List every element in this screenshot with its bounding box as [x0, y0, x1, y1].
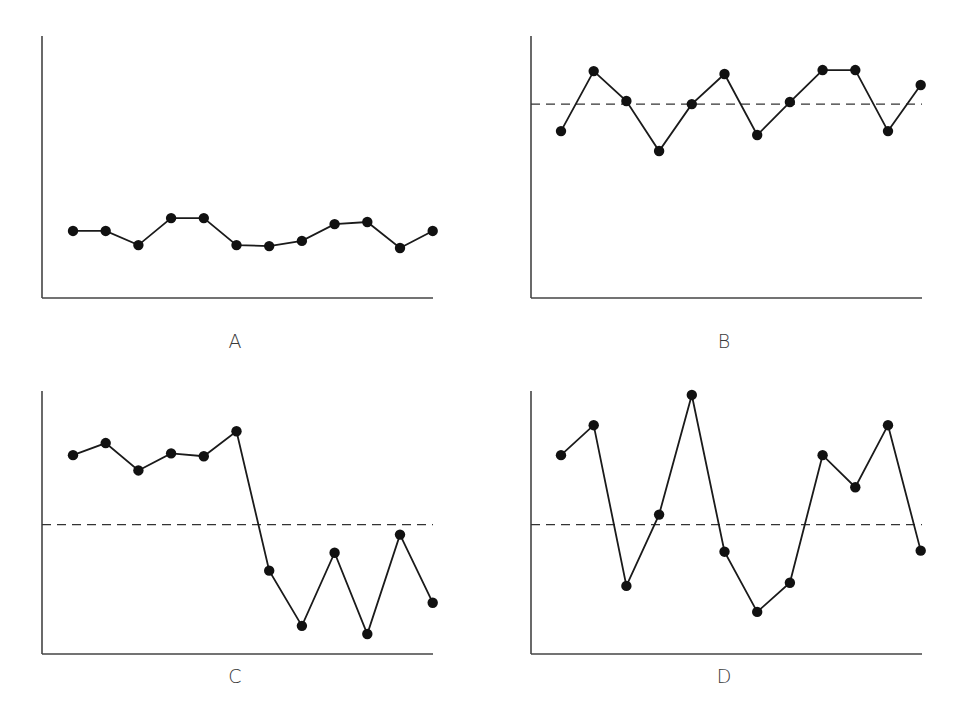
data-point-marker: [654, 509, 664, 519]
chart-b-label: B: [519, 330, 929, 352]
data-point-marker: [850, 482, 860, 492]
data-point-marker: [752, 130, 762, 140]
chart-c-label: C: [30, 665, 440, 687]
data-point-marker: [329, 219, 339, 229]
chart-a-label: A: [30, 330, 440, 352]
data-point-marker: [916, 80, 926, 90]
chart-panel-a: A: [30, 20, 460, 360]
data-point-marker: [428, 598, 438, 608]
data-point-marker: [556, 450, 566, 460]
data-point-marker: [850, 65, 860, 75]
chart-c-plot: [30, 375, 460, 675]
data-point-marker: [719, 69, 729, 79]
data-point-marker: [133, 465, 143, 475]
data-point-marker: [719, 546, 729, 556]
data-point-marker: [395, 243, 405, 253]
data-point-marker: [395, 529, 405, 539]
data-point-marker: [687, 390, 697, 400]
data-point-marker: [68, 226, 78, 236]
chart-b-plot: [519, 20, 949, 320]
series-line: [73, 431, 433, 634]
data-point-marker: [654, 146, 664, 156]
chart-a-plot: [30, 20, 460, 320]
data-point-marker: [329, 548, 339, 558]
data-point-marker: [621, 581, 631, 591]
data-point-marker: [817, 65, 827, 75]
data-point-marker: [428, 226, 438, 236]
data-point-marker: [297, 621, 307, 631]
series-line: [561, 70, 921, 151]
data-point-marker: [687, 99, 697, 109]
data-point-marker: [752, 607, 762, 617]
chart-panel-d: D: [519, 375, 949, 715]
series-line: [561, 395, 921, 612]
data-point-marker: [101, 226, 111, 236]
data-point-marker: [916, 545, 926, 555]
data-point-marker: [362, 629, 372, 639]
data-point-marker: [883, 126, 893, 136]
data-point-marker: [133, 240, 143, 250]
data-point-marker: [264, 241, 274, 251]
data-point-marker: [297, 236, 307, 246]
data-point-marker: [785, 97, 795, 107]
data-point-marker: [199, 451, 209, 461]
data-point-marker: [556, 126, 566, 136]
data-point-marker: [199, 213, 209, 223]
data-point-marker: [589, 66, 599, 76]
chart-panel-c: C: [30, 375, 460, 715]
chart-d-label: D: [519, 665, 929, 687]
chart-panel-b: B: [519, 20, 949, 360]
data-point-marker: [785, 578, 795, 588]
data-point-marker: [589, 420, 599, 430]
data-point-marker: [883, 420, 893, 430]
chart-d-plot: [519, 375, 949, 675]
data-point-marker: [231, 426, 241, 436]
data-point-marker: [166, 213, 176, 223]
series-line: [73, 218, 433, 248]
data-point-marker: [101, 438, 111, 448]
data-point-marker: [362, 217, 372, 227]
data-point-marker: [264, 565, 274, 575]
data-point-marker: [231, 240, 241, 250]
data-point-marker: [68, 450, 78, 460]
data-point-marker: [621, 96, 631, 106]
data-point-marker: [166, 448, 176, 458]
data-point-marker: [817, 450, 827, 460]
